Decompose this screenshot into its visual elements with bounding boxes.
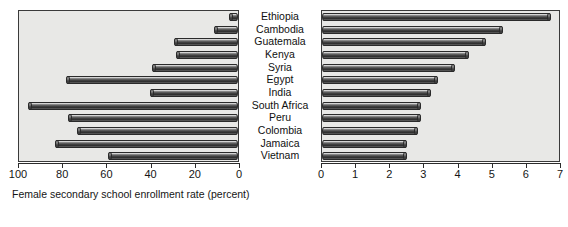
bar-ethiopia [229,13,238,21]
bar-guatemala [322,38,486,46]
bar-row [19,11,238,24]
bar-kenya [322,51,469,59]
bar-row [322,24,559,37]
bar-row [19,49,238,62]
bar-vietnam [108,152,238,160]
left-x-axis-line [18,163,239,164]
axis-tick-label: 5 [477,168,507,181]
bar-colombia [322,127,418,135]
bar-ethiopia [322,13,551,21]
bar-peru [322,114,421,122]
bar-row [19,100,238,113]
axis-tick-label: 1 [340,168,370,181]
bar-guatemala [174,38,238,46]
bar-jamaica [322,140,407,148]
left-axis-caption: Female secondary school enrollment rate … [12,188,250,201]
left-plot-area [18,10,239,162]
bar-row [19,74,238,87]
dual-bar-chart-figure: 100806040200 Female secondary school enr… [0,0,568,227]
bar-south-africa [322,102,421,110]
axis-tick-label: 40 [136,168,166,181]
right-x-axis-line [321,163,560,164]
bar-syria [322,64,455,72]
bar-row [19,87,238,100]
axis-tick-label: 0 [306,168,336,181]
bar-row [19,125,238,138]
bar-row [19,112,238,125]
bar-syria [152,64,238,72]
bar-egypt [322,76,438,84]
bar-cambodia [214,26,238,34]
bar-row [322,49,559,62]
bar-row [322,62,559,75]
bar-row [322,11,559,24]
bar-row [322,87,559,100]
bar-row [322,112,559,125]
bar-row [19,150,238,162]
bar-colombia [77,127,238,135]
bar-row [19,138,238,151]
axis-tick-label: 100 [3,168,33,181]
bar-india [150,89,238,97]
bar-row [19,62,238,75]
axis-tick-label: 2 [374,168,404,181]
axis-tick-label: 0 [224,168,254,181]
bar-cambodia [322,26,503,34]
bar-row [19,24,238,37]
bar-row [322,125,559,138]
axis-tick-label: 20 [180,168,210,181]
bar-jamaica [55,140,238,148]
bar-india [322,89,431,97]
axis-tick-label: 4 [443,168,473,181]
right-plot-area [321,10,560,162]
bar-kenya [176,51,238,59]
bar-egypt [66,76,238,84]
bar-row [322,150,559,162]
axis-tick-label: 60 [91,168,121,181]
bar-row [19,36,238,49]
bar-row [322,74,559,87]
axis-tick-label: 3 [408,168,438,181]
bar-row [322,138,559,151]
axis-tick-label: 80 [47,168,77,181]
bar-vietnam [322,152,407,160]
bar-south-africa [28,102,238,110]
bar-row [322,36,559,49]
bar-row [322,100,559,113]
bar-peru [68,114,238,122]
axis-tick-label: 6 [511,168,541,181]
axis-tick-label: 7 [545,168,568,181]
right-chart-panel: 01234567 Total fertility rate 1995–2000 [284,0,568,227]
